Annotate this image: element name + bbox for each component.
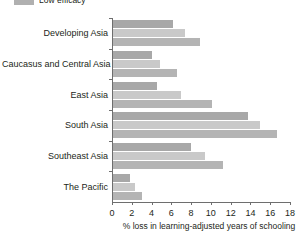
x-axis-title: % loss in learning-adjusted years of sch… <box>112 221 306 231</box>
y-axis-tick <box>109 110 112 111</box>
bar <box>113 100 212 108</box>
bar <box>113 51 152 59</box>
x-axis-tick-label: 14 <box>240 208 260 218</box>
bar-chart: Low efficacy Developing AsiaCaucasus and… <box>0 0 306 238</box>
x-axis-line <box>112 202 291 203</box>
x-axis-tick <box>191 202 192 205</box>
x-axis-tick <box>250 202 251 205</box>
x-axis-tick-label: 2 <box>122 208 142 218</box>
bar <box>113 183 135 191</box>
x-axis-tick-label: 8 <box>181 208 201 218</box>
y-axis-tick <box>109 79 112 80</box>
x-axis-tick-label: 4 <box>142 208 162 218</box>
x-axis-tick <box>290 202 291 205</box>
x-axis-tick <box>132 202 133 205</box>
x-axis-tick <box>112 202 113 205</box>
bar <box>113 82 157 90</box>
chart-legend: Low efficacy <box>14 0 86 5</box>
bar <box>113 91 181 99</box>
legend-swatch-icon <box>14 0 34 5</box>
x-axis-tick <box>152 202 153 205</box>
bar <box>113 60 160 68</box>
bar <box>113 152 205 160</box>
category-label: East Asia <box>2 90 108 100</box>
y-axis-tick <box>109 171 112 172</box>
x-axis-tick <box>270 202 271 205</box>
bar <box>113 69 177 77</box>
x-axis-tick-label: 6 <box>161 208 181 218</box>
bar <box>113 20 173 28</box>
y-axis-tick <box>109 18 112 19</box>
bar <box>113 121 260 129</box>
x-axis-tick-label: 12 <box>221 208 241 218</box>
bar <box>113 192 142 200</box>
legend-label-low-efficacy: Low efficacy <box>39 0 86 5</box>
bar <box>113 174 130 182</box>
bar <box>113 143 191 151</box>
bar <box>113 38 200 46</box>
y-axis-tick <box>109 141 112 142</box>
x-axis-tick <box>231 202 232 205</box>
category-label: Southeast Asia <box>2 151 108 161</box>
category-label: The Pacific <box>2 182 108 192</box>
bar <box>113 112 248 120</box>
plot-area: Developing AsiaCaucasus and Central Asia… <box>112 18 291 202</box>
x-axis-tick <box>171 202 172 205</box>
bar <box>113 29 185 37</box>
bar <box>113 130 277 138</box>
bar <box>113 161 223 169</box>
x-axis-tick-label: 16 <box>260 208 280 218</box>
x-axis-tick-label: 0 <box>102 208 122 218</box>
category-label: South Asia <box>2 120 108 130</box>
category-label: Developing Asia <box>2 28 108 38</box>
x-axis-tick-label: 10 <box>201 208 221 218</box>
x-axis-tick <box>211 202 212 205</box>
x-axis-tick-label: 18 <box>280 208 300 218</box>
y-axis-tick <box>109 49 112 50</box>
category-label: Caucasus and Central Asia <box>2 59 108 69</box>
